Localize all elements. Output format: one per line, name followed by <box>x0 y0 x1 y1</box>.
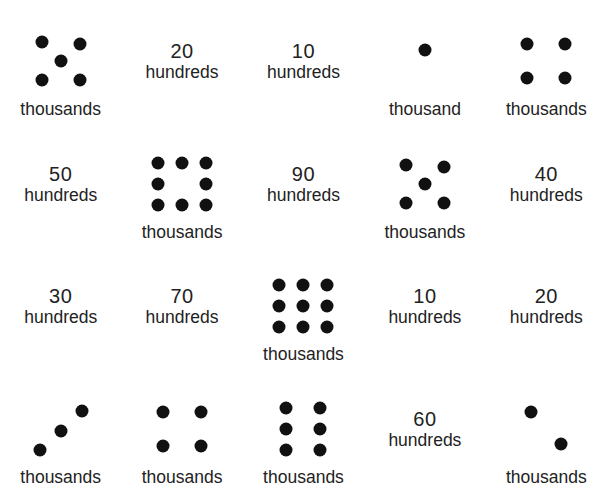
worksheet-cell-r2c1: 50hundreds <box>0 123 121 246</box>
worksheet-cell-r4c2: thousands <box>121 368 242 490</box>
dot <box>75 404 88 417</box>
dot-pattern-quincunx-5 <box>388 151 462 217</box>
dot <box>321 321 334 334</box>
worksheet-cell-r2c5: 40hundreds <box>486 123 607 246</box>
unit-label: thousands <box>506 468 587 486</box>
dot <box>73 38 86 51</box>
dot <box>437 196 450 209</box>
dot <box>314 422 327 435</box>
unit-label: hundreds <box>146 63 219 81</box>
dot <box>152 198 165 211</box>
place-value-number: 50 <box>49 164 72 184</box>
value-figure: 10 <box>413 286 436 306</box>
place-value-number: 70 <box>170 286 193 306</box>
dot <box>35 74 48 87</box>
worksheet-cell-r1c4: thousand <box>364 0 485 123</box>
unit-label: hundreds <box>267 63 340 81</box>
dot <box>280 401 293 414</box>
worksheet-cell-r1c1: thousands <box>0 0 121 123</box>
value-figure: 30 <box>49 286 72 306</box>
value-figure: 40 <box>535 164 558 184</box>
dot <box>399 196 412 209</box>
dot <box>152 177 165 190</box>
unit-label: thousands <box>263 345 344 363</box>
dot <box>54 424 67 437</box>
unit-label: hundreds <box>146 308 219 326</box>
worksheet-cell-r3c4: 10hundreds <box>364 245 485 368</box>
dot-pattern-single <box>388 28 462 94</box>
dot <box>176 156 189 169</box>
unit-label: thousands <box>142 223 223 241</box>
value-figure: 20 <box>170 41 193 61</box>
dot <box>54 55 67 68</box>
dot <box>314 401 327 414</box>
dot <box>176 198 189 211</box>
dot <box>273 300 286 313</box>
value-figure: 70 <box>170 286 193 306</box>
dot <box>157 439 170 452</box>
worksheet-cell-r2c3: 90hundreds <box>243 123 364 246</box>
worksheet-cell-r3c1: 30hundreds <box>0 245 121 368</box>
dot <box>273 321 286 334</box>
value-figure: 50 <box>49 164 72 184</box>
dot-pattern-diagonal-3 <box>24 396 98 462</box>
dot-pattern-grid-9 <box>266 273 340 339</box>
value-figure: 60 <box>413 409 436 429</box>
worksheet-cell-r2c4: thousands <box>364 123 485 246</box>
dot-pattern-square-4 <box>145 396 219 462</box>
dot <box>321 279 334 292</box>
unit-label: thousands <box>142 468 223 486</box>
worksheet-cell-r3c2: 70hundreds <box>121 245 242 368</box>
place-value-number: 30 <box>49 286 72 306</box>
worksheet-cell-r1c2: 20hundreds <box>121 0 242 123</box>
dot <box>273 279 286 292</box>
worksheet-cell-r3c3: thousands <box>243 245 364 368</box>
worksheet-cell-r4c4: 60hundreds <box>364 368 485 490</box>
dot-pattern-quincunx-5 <box>24 28 98 94</box>
place-value-number: 40 <box>535 164 558 184</box>
worksheet-cell-r4c1: thousands <box>0 368 121 490</box>
dot-pattern-ring-8 <box>145 151 219 217</box>
dot <box>297 321 310 334</box>
unit-label: thousands <box>263 468 344 486</box>
unit-label: hundreds <box>267 186 340 204</box>
dot <box>280 422 293 435</box>
unit-label: hundreds <box>388 308 461 326</box>
value-figure: 90 <box>292 164 315 184</box>
dot <box>200 156 213 169</box>
dot <box>297 279 310 292</box>
dot <box>437 160 450 173</box>
dot <box>525 405 538 418</box>
place-value-number: 20 <box>170 41 193 61</box>
dot-pattern-square-4 <box>509 28 583 94</box>
dot <box>195 439 208 452</box>
unit-label: thousands <box>20 468 101 486</box>
unit-label: thousand <box>389 100 461 118</box>
dot <box>555 437 568 450</box>
place-value-number: 10 <box>292 41 315 61</box>
dot <box>73 74 86 87</box>
dot <box>297 300 310 313</box>
dot <box>157 405 170 418</box>
dot <box>152 156 165 169</box>
value-figure: 20 <box>535 286 558 306</box>
unit-label: hundreds <box>388 431 461 449</box>
dot <box>418 44 431 57</box>
worksheet-grid: thousands20hundreds10hundredsthousandtho… <box>0 0 607 490</box>
worksheet-cell-r1c3: 10hundreds <box>243 0 364 123</box>
dot <box>314 443 327 456</box>
dot-pattern-two-columns-6 <box>266 396 340 462</box>
dot <box>521 72 534 85</box>
value-figure: 10 <box>292 41 315 61</box>
dot <box>418 177 431 190</box>
dot-pattern-diagonal-2 <box>509 396 583 462</box>
dot <box>35 36 48 49</box>
dot <box>559 72 572 85</box>
place-value-number: 20 <box>535 286 558 306</box>
dot <box>399 158 412 171</box>
dot <box>559 38 572 51</box>
place-value-number: 60 <box>413 409 436 429</box>
unit-label: hundreds <box>24 186 97 204</box>
dot <box>321 300 334 313</box>
unit-label: thousands <box>506 100 587 118</box>
